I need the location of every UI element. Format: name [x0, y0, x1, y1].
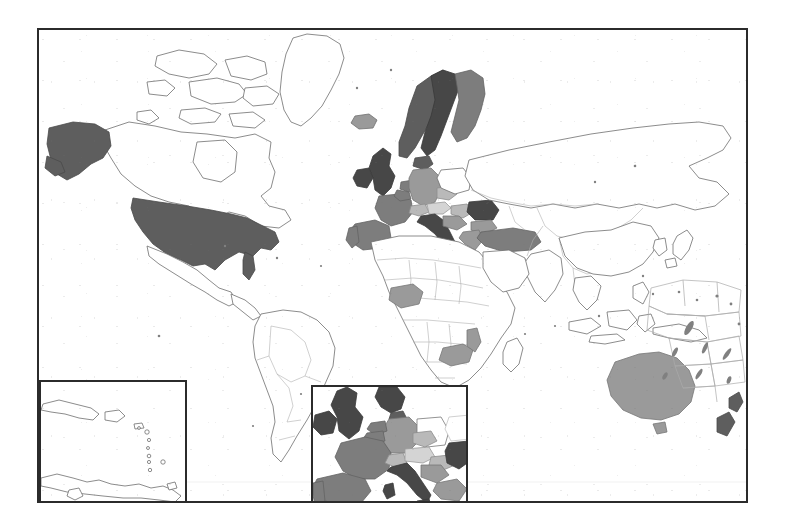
region-germany — [409, 168, 441, 206]
map-figure — [0, 0, 787, 527]
caribbean-inset-canvas — [41, 382, 187, 503]
world-map-frame — [37, 28, 748, 503]
europe-inset-canvas — [313, 387, 468, 503]
inset-panel-europe[interactable] — [311, 385, 468, 503]
island-dot — [148, 468, 151, 471]
island-dot — [147, 454, 151, 458]
island-dot — [147, 447, 150, 450]
island-dot — [147, 438, 150, 441]
region-japan-south — [665, 258, 677, 268]
inset-panel-caribbean[interactable] — [39, 380, 187, 503]
island-dot — [161, 460, 165, 464]
island-dot — [147, 460, 150, 463]
island-dot — [145, 430, 149, 434]
island-dot — [138, 427, 141, 430]
inset-region-portugal — [313, 481, 325, 503]
